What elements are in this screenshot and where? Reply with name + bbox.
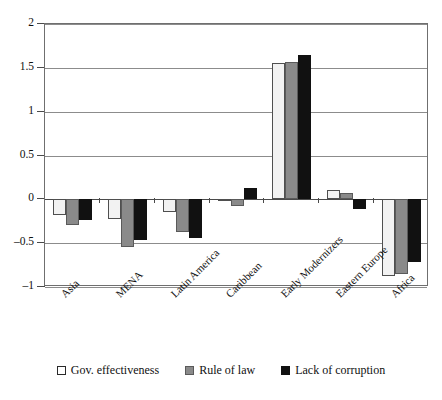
bar (395, 199, 408, 274)
y-axis-tick (37, 242, 44, 243)
bar (121, 199, 134, 246)
y-axis-tick (37, 23, 44, 24)
bar (298, 55, 311, 200)
legend-item: Rule of law (185, 364, 255, 376)
bar (134, 199, 147, 239)
y-axis-tick-label: –1 (0, 280, 34, 291)
y-axis-tick (37, 67, 44, 68)
y-axis-tick-label: –0.5 (0, 236, 34, 247)
legend-item: Gov. effectiveness (57, 364, 159, 376)
x-axis-tick (373, 198, 374, 203)
bar-group (108, 24, 147, 285)
bar (108, 199, 121, 218)
y-axis-tick-label: 1.5 (0, 61, 34, 72)
bar-group (53, 24, 92, 285)
bar (66, 199, 79, 224)
bar (285, 62, 298, 200)
bar (408, 199, 421, 262)
black-filled-square-icon (281, 366, 290, 375)
bar-group (218, 24, 257, 285)
y-axis-tick-label: 2 (0, 17, 34, 28)
bar (231, 199, 244, 206)
bar (353, 199, 366, 209)
legend-item: Lack of corruption (281, 364, 385, 376)
x-axis-tick (318, 198, 319, 203)
bar (163, 199, 176, 212)
bar-group (272, 24, 311, 285)
bar (244, 188, 257, 199)
y-axis-tick-label: 1 (0, 105, 34, 116)
bar (189, 199, 202, 238)
y-axis-tick-label: 0.5 (0, 149, 34, 160)
x-axis-tick (99, 198, 100, 203)
bar (272, 63, 285, 199)
bar-group (382, 24, 421, 285)
x-axis-tick (154, 198, 155, 203)
chart-legend: Gov. effectivenessRule of lawLack of cor… (0, 364, 442, 376)
y-axis-tick (37, 286, 44, 287)
bar-chart-figure: 21.510.50–0.5–1 AsiaMENALatin AmericaCar… (0, 0, 442, 400)
gray-filled-square-icon (185, 366, 194, 375)
x-axis-tick (263, 198, 264, 203)
bar (53, 199, 66, 215)
bar (218, 199, 231, 201)
legend-label: Gov. effectiveness (71, 364, 159, 376)
white-square-outline-icon (57, 366, 66, 375)
bar (79, 199, 92, 220)
plot-area (44, 23, 428, 286)
bar-group (163, 24, 202, 285)
bar (327, 190, 340, 200)
y-axis-tick (37, 155, 44, 156)
y-axis-tick (37, 198, 44, 199)
bar (340, 193, 353, 199)
y-axis-tick-label: 0 (0, 192, 34, 203)
y-axis-tick (37, 111, 44, 112)
legend-label: Lack of corruption (295, 364, 385, 376)
bar (382, 199, 395, 275)
legend-label: Rule of law (199, 364, 255, 376)
x-axis-tick (209, 198, 210, 203)
bar (176, 199, 189, 231)
